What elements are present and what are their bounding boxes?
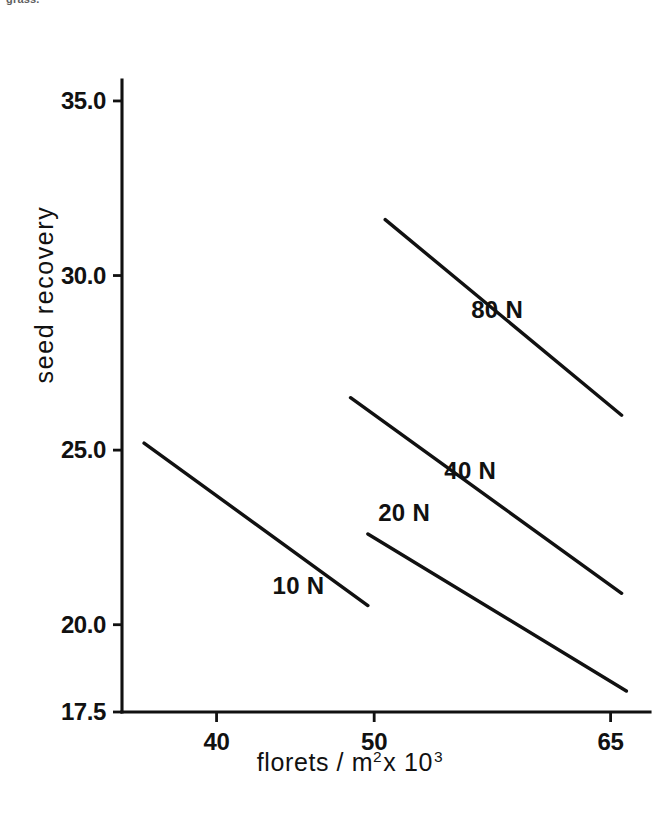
series-line-40-n [351,398,622,594]
series-label-20-n: 20 N [378,499,430,527]
x-axis-title-exponent-1: 2 [373,748,382,765]
y-tick-label: 25.0 [0,436,106,464]
figure-container: grass. 17.520.025.030.035.0 405065 10 N2… [0,0,671,814]
chart-plot-area [0,0,671,814]
series-label-10-n: 10 N [273,572,325,600]
x-axis-title-exponent-2: 3 [434,748,443,765]
x-axis-title-mid: x 10 [383,748,433,776]
y-tick-label: 35.0 [0,87,106,115]
y-axis-title: seed recovery [30,165,59,425]
x-axis-title-main: florets / m [257,748,373,776]
y-tick-label: 20.0 [0,611,106,639]
series-line-10-n [144,443,368,605]
series-label-40-n: 40 N [444,457,496,485]
series-label-80-n: 80 N [471,296,523,324]
series-line-20-n [368,534,626,691]
y-tick-label: 17.5 [0,698,106,726]
data-series-group [144,220,626,691]
x-axis-title: florets / m2x 103 [0,748,671,777]
